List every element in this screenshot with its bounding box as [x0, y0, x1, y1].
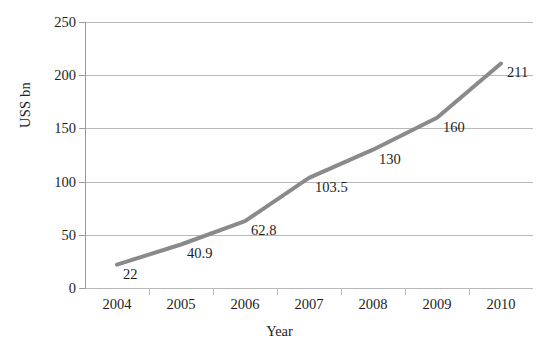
chart-screenshot: 250 200 150 100 50 0 2004 2005 2006 2007… [0, 0, 559, 347]
point-label-2007: 103.5 [315, 180, 348, 195]
point-label-2010: 211 [507, 65, 528, 80]
point-label-2005: 40.9 [187, 246, 212, 261]
point-label-2008: 130 [379, 152, 401, 167]
point-label-2006: 62.8 [251, 223, 276, 238]
point-label-2004: 22 [123, 267, 138, 282]
point-label-2009: 160 [443, 120, 465, 135]
series-polyline [117, 64, 501, 265]
series-line [0, 0, 559, 347]
